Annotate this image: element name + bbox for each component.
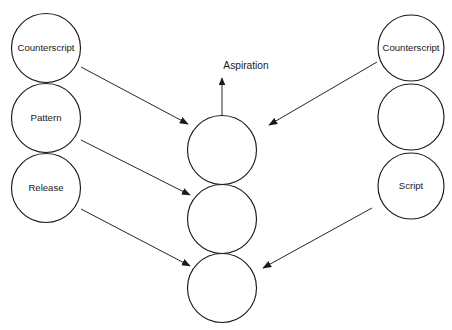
node-center-lower[interactable]: [188, 254, 257, 323]
node-left-pattern-label: Pattern: [31, 112, 62, 123]
node-right-counterscript-label: Counterscript: [382, 42, 439, 53]
node-center-upper[interactable]: [188, 116, 257, 185]
arrow-left-release-to-center-lower: [81, 209, 190, 266]
left-column: Counterscript Pattern Release: [12, 14, 81, 223]
arrow-right-counterscript-to-center-upper: [269, 62, 377, 125]
node-right-blank[interactable]: [378, 84, 444, 150]
arrow-left-counterscript-to-center-upper: [81, 67, 188, 124]
diagram-svg: Aspiration Counterscript Pattern Release…: [0, 0, 452, 330]
node-right-script-label: Script: [399, 180, 424, 191]
diagram-canvas: Aspiration Counterscript Pattern Release…: [0, 0, 452, 330]
node-center-middle[interactable]: [188, 185, 257, 254]
node-left-release-label: Release: [28, 182, 63, 193]
arrow-left-pattern-to-center-middle: [81, 140, 190, 195]
right-column: Counterscript Script: [378, 15, 444, 219]
node-left-counterscript-label: Counterscript: [17, 42, 74, 53]
aspiration-label: Aspiration: [223, 60, 268, 71]
center-column: [188, 116, 257, 323]
arrow-right-script-to-center-lower: [263, 208, 372, 268]
